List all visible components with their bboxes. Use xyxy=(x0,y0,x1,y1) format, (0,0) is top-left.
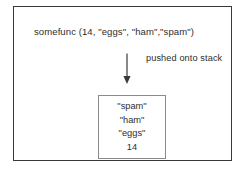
figure-frame: somefunc (14, "eggs", "ham","spam") push… xyxy=(13,6,232,161)
pushed-onto-stack-label: pushed onto stack xyxy=(146,52,222,64)
stack-diagram: somefunc (14, "eggs", "ham","spam") push… xyxy=(0,0,245,172)
function-call-expression: somefunc (14, "eggs", "ham","spam") xyxy=(34,26,194,38)
arrow-down-icon xyxy=(118,53,136,85)
stack-entry: "spam" xyxy=(117,100,146,114)
stack-frame-box: "spam" "ham" "eggs" 14 xyxy=(98,95,166,159)
stack-entry: "eggs" xyxy=(119,127,146,141)
stack-entry: 14 xyxy=(127,141,137,155)
stack-entry: "ham" xyxy=(120,114,145,128)
